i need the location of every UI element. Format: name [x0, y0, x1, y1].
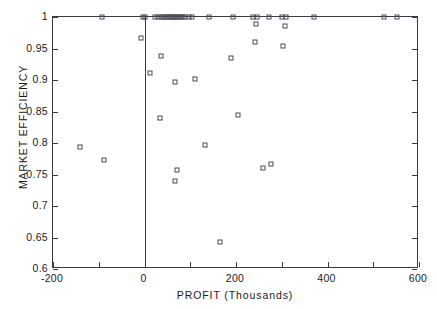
data-point [284, 15, 289, 20]
y-axis-tick-label: 0.95 [26, 42, 48, 54]
x-axis-tick-label: 400 [317, 272, 335, 284]
data-point [217, 239, 222, 244]
data-point [266, 15, 271, 20]
y-axis-tick-label: 0.9 [33, 73, 49, 85]
y-axis-tick-label: 1 [42, 10, 48, 22]
data-point [172, 178, 177, 183]
data-points-layer [53, 17, 417, 267]
data-point [228, 55, 233, 60]
data-point [157, 116, 162, 121]
y-axis-tick-right [412, 206, 417, 207]
y-axis-tick-right [412, 17, 417, 18]
y-axis-tick-right [412, 49, 417, 50]
data-point [172, 79, 177, 84]
y-axis-tick [53, 206, 58, 207]
data-point [175, 168, 180, 173]
data-point [143, 15, 148, 20]
data-point [269, 161, 274, 166]
y-axis-tick-right [412, 143, 417, 144]
y-axis-tick [53, 175, 58, 176]
y-axis-tick [53, 80, 58, 81]
x-axis-tick-label: -200 [41, 272, 63, 284]
y-axis-tick-label: 0.65 [26, 231, 48, 243]
data-point [102, 158, 107, 163]
y-axis-tick [53, 112, 58, 113]
y-axis-tick [53, 238, 58, 239]
data-point [100, 15, 105, 20]
data-point [260, 165, 265, 170]
x-axis-tick-label: 0 [140, 272, 146, 284]
data-point [311, 15, 316, 20]
data-point [236, 112, 241, 117]
y-axis-tick-right [412, 238, 417, 239]
data-point [255, 15, 260, 20]
x-axis-title: PROFIT (Thousands) [52, 289, 418, 301]
plot-area [52, 16, 418, 268]
y-axis-tick-right [412, 80, 417, 81]
data-point [148, 71, 153, 76]
zero-reference-line [145, 17, 146, 267]
y-axis-tick-right [412, 269, 417, 270]
data-point [253, 21, 258, 26]
x-axis-minor-tick [373, 262, 374, 267]
data-point [394, 15, 399, 20]
y-axis-tick-label: 0.85 [26, 105, 48, 117]
data-point [206, 15, 211, 20]
y-axis-tick-label: 0.7 [33, 199, 49, 211]
data-point [282, 23, 287, 28]
x-axis-tick [145, 262, 146, 267]
x-axis-minor-tick [190, 262, 191, 267]
y-axis-tick-right [412, 175, 417, 176]
data-point [158, 54, 163, 59]
data-point [203, 142, 208, 147]
x-axis-tick [236, 262, 237, 267]
data-point [190, 15, 195, 20]
x-axis-tick-label: 600 [409, 272, 427, 284]
y-axis-tick-label: 0.8 [33, 136, 49, 148]
x-axis-tick-labels: -2000200400600 [52, 272, 418, 288]
y-axis-tick [53, 49, 58, 50]
data-point [139, 36, 144, 41]
data-point [77, 145, 82, 150]
data-point [280, 43, 285, 48]
data-point [252, 40, 257, 45]
y-axis-tick-label: 0.75 [26, 168, 48, 180]
y-axis-tick [53, 143, 58, 144]
x-axis-minor-tick [99, 262, 100, 267]
y-axis-tick [53, 269, 58, 270]
x-axis-tick [53, 262, 54, 267]
x-axis-tick [419, 262, 420, 267]
x-axis-tick-label: 200 [226, 272, 244, 284]
x-axis-tick [328, 262, 329, 267]
data-point [382, 15, 387, 20]
data-point [192, 76, 197, 81]
y-axis-title: MARKET EFFICIENCY [17, 27, 29, 227]
y-axis-tick-right [412, 112, 417, 113]
data-point [230, 15, 235, 20]
y-axis-tick [53, 17, 58, 18]
scatter-plot-figure: 0.60.650.70.750.80.850.90.951 -200020040… [0, 0, 437, 309]
x-axis-minor-tick [282, 262, 283, 267]
